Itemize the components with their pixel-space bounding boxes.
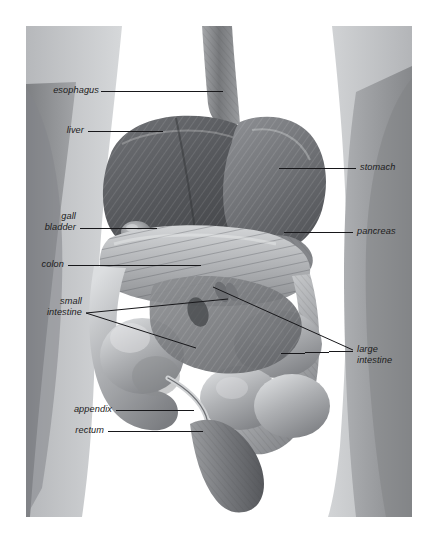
label-small-line1: small — [60, 296, 82, 306]
label-gall-line2: bladder — [45, 222, 76, 232]
label-stomach: stomach — [360, 162, 395, 173]
label-large-line1: large — [357, 344, 378, 354]
label-colon: colon — [6, 259, 64, 270]
anatomy-illustration — [26, 26, 412, 517]
illustration-panel — [26, 26, 412, 517]
label-liver: liver — [6, 125, 84, 136]
label-appendix: appendix — [6, 404, 112, 415]
figure-root: esophagus liver gallbladder colon smalli… — [0, 0, 436, 549]
label-large-intestine: largeintestine — [357, 344, 392, 365]
label-large-line2: intestine — [357, 355, 392, 365]
label-esophagus: esophagus — [6, 85, 99, 96]
label-small-line2: intestine — [47, 307, 82, 317]
label-small-intestine: smallintestine — [4, 296, 82, 317]
label-gall-line1: gall — [61, 211, 76, 221]
label-gall-bladder: gallbladder — [6, 211, 76, 232]
label-pancreas: pancreas — [357, 226, 396, 237]
label-rectum: rectum — [6, 425, 104, 436]
